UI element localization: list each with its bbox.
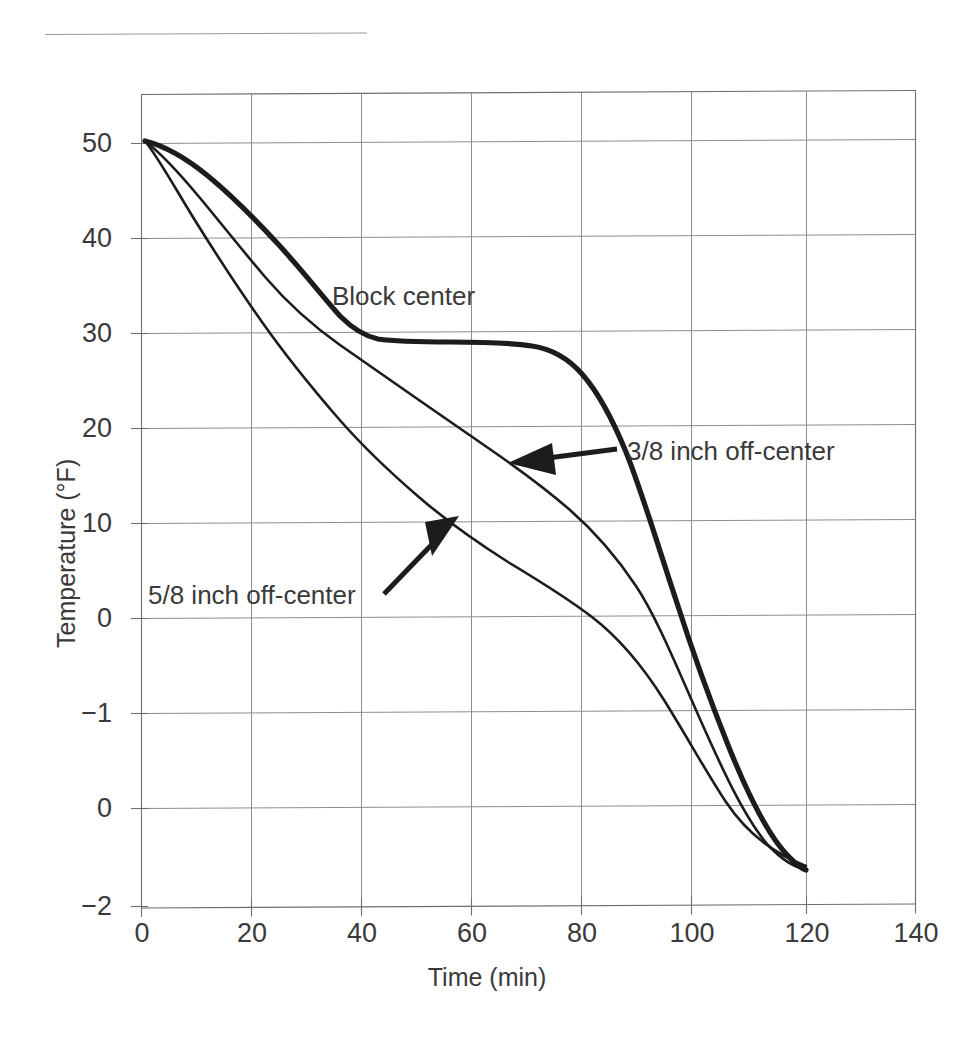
y-tick-label-minus-2: −2 [34, 891, 112, 922]
chart-figure: 50 40 30 20 10 0 −1 0 −2 0 20 40 60 80 1… [0, 0, 974, 1053]
series-label-block-center: Block center [332, 281, 475, 312]
y-tick-label-30: 30 [34, 318, 112, 349]
x-tick-label-60: 60 [434, 918, 510, 949]
grid-vertical [252, 92, 807, 908]
plot-frame [141, 91, 916, 909]
arrow-3-8-off-center [508, 443, 617, 475]
y-tick-label-20: 20 [34, 413, 112, 444]
x-tick-label-100: 100 [654, 918, 730, 949]
y-tick-label-0-lower: 0 [34, 793, 112, 824]
x-tick-label-120: 120 [769, 918, 845, 949]
x-tick-label-40: 40 [324, 918, 400, 949]
y-axis-title: Temperature (°F) [52, 459, 81, 648]
y-tick-label-minus-1: −1 [34, 698, 112, 729]
grid-horizontal [141, 140, 916, 809]
series-label-3-8-off-center: 3/8 inch off-center [627, 436, 835, 467]
y-tick-label-40: 40 [34, 223, 112, 254]
y-tick-marks [131, 144, 148, 907]
figure-page: 50 40 30 20 10 0 −1 0 −2 0 20 40 60 80 1… [0, 0, 974, 1053]
x-tick-label-140: 140 [878, 918, 954, 949]
arrow-5-8-off-center [384, 516, 459, 594]
x-tick-label-20: 20 [214, 918, 290, 949]
series-label-5-8-off-center: 5/8 inch off-center [148, 580, 356, 611]
series-path-3-8-off-center [145, 141, 806, 869]
series-path-5-8-off-center [145, 141, 806, 866]
x-tick-label-0: 0 [104, 918, 180, 949]
y-tick-label-50: 50 [34, 128, 112, 159]
x-tick-label-80: 80 [544, 918, 620, 949]
x-axis-title: Time (min) [0, 963, 974, 992]
chart-canvas [0, 0, 974, 1053]
